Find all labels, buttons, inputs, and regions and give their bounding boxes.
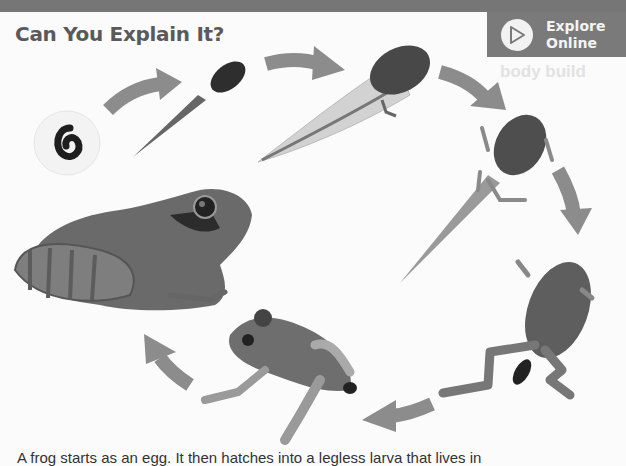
arrow-icon — [266, 46, 345, 80]
frog-egg-image — [34, 111, 100, 175]
arrow-icon — [144, 334, 190, 385]
adult-frog-image — [15, 189, 252, 310]
tadpole-four-legs-image — [400, 105, 557, 283]
arrow-icon — [558, 170, 592, 235]
froglet-image — [443, 253, 603, 395]
arrow-icon — [362, 400, 432, 432]
young-frog-image — [205, 309, 357, 440]
arrow-icon — [440, 72, 506, 110]
arrow-icon — [108, 68, 182, 110]
body-paragraph: A frog starts as an egg. It then hatches… — [17, 449, 481, 466]
young-tadpole-image — [133, 55, 251, 157]
